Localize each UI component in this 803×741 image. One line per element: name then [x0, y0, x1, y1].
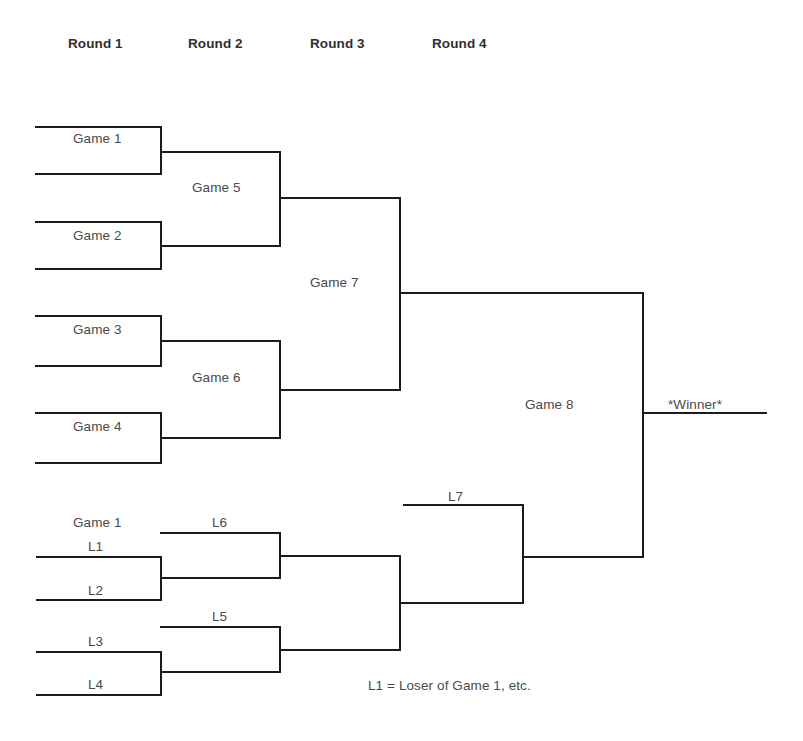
l3: L3 [88, 634, 103, 649]
l4: L4 [88, 677, 103, 692]
l2: L2 [88, 583, 103, 598]
game-4: Game 4 [73, 419, 122, 434]
game-3: Game 3 [73, 322, 122, 337]
round-header-0: Round 1 [68, 36, 123, 51]
losers-bracket-lines [37, 505, 523, 695]
tournament-bracket-diagram: Round 1Round 2Round 3Round 4 Game 1Game … [0, 0, 803, 741]
game-2: Game 2 [73, 228, 122, 243]
game-7: Game 7 [310, 275, 359, 290]
game-1: Game 1 [73, 131, 122, 146]
round-header-1: Round 2 [188, 36, 243, 51]
game-5: Game 5 [192, 180, 241, 195]
losers-game-1: Game 1 [73, 515, 122, 530]
footnote-legend: L1 = Loser of Game 1, etc. [368, 678, 531, 693]
game-8: Game 8 [525, 397, 574, 412]
round-header-2: Round 3 [310, 36, 365, 51]
l7: L7 [448, 489, 463, 504]
game-6: Game 6 [192, 370, 241, 385]
winner: *Winner* [668, 397, 722, 412]
l1: L1 [88, 539, 103, 554]
l6: L6 [212, 515, 227, 530]
bracket-lines-svg [0, 0, 803, 741]
winners-bracket-lines [36, 127, 766, 557]
round-header-3: Round 4 [432, 36, 487, 51]
l5: L5 [212, 609, 227, 624]
